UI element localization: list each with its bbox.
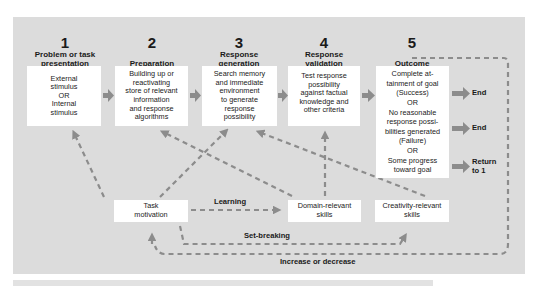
box-text: Some progress [388,156,437,166]
stage-number: 4 [280,35,368,50]
box-text: possibility [224,113,256,122]
task-motivation-box: Task motivation [114,200,188,222]
stage-number: 2 [108,35,196,50]
box-text: toward goal [394,165,432,175]
stage-5-heading: 5 Outcome [368,35,456,68]
box-text: No reasonable [389,108,436,118]
box-text: OR [407,146,418,156]
box-text: (Success) [396,88,428,98]
stage-3-box: Search memory and immediate environment … [202,66,277,126]
box-text: skills [317,211,333,220]
learning-label: Learning [214,198,246,207]
box-text: tainment of goal [387,79,439,89]
stage-number: 1 [20,35,110,50]
stage-title: Problem or task [20,50,110,59]
stage-5-box: Complete at- tainment of goal (Success) … [376,66,449,178]
domain-skills-box: Domain-relevant skills [288,200,361,222]
box-text: bilities generated [385,127,440,137]
stage-4-heading: 4 Response validation [280,35,368,68]
stage-title [368,50,456,59]
box-text: other criteria [304,106,345,115]
stage-number: 3 [195,35,283,50]
stage-1-box: External stimulus OR Internal stimulus [27,66,101,126]
stage-number: 5 [368,35,456,50]
stage-2-box: Building up or reactivating store of rel… [115,66,188,126]
outcome-failure-end: End [472,124,486,133]
stage-1-heading: 1 Problem or task presentation [20,35,110,68]
box-text: (Failure) [399,136,426,146]
box-text: motivation [134,211,167,220]
arrow-3-to-4 [278,89,288,102]
arrow-4-to-5 [362,89,375,102]
increase-decrease-label: Increase or decrease [280,258,356,267]
creativity-skills-box: Creativity-relevant skills [375,200,449,222]
stage-title: Response [280,50,368,59]
outcome-success-end: End [472,89,486,98]
outcome-return-to-1: Return to 1 [472,158,496,175]
box-text: Complete at- [392,69,434,79]
stage-title [108,50,196,59]
arrow-1-to-2 [103,89,114,102]
box-text: skills [404,211,420,220]
return-line2: to 1 [472,167,496,176]
stage-3-heading: 3 Response generation [195,35,283,68]
box-text: OR [407,98,418,108]
set-breaking-label: Set-breaking [244,232,290,241]
stage-2-heading: 2 Preparation [108,35,196,68]
box-text: algorithms [135,113,169,122]
box-text: stimulus [51,109,78,118]
figure-caption-cutoff [13,280,433,286]
stage-4-box: Test response possibility against factua… [288,66,360,126]
arrow-2-to-3 [190,89,201,102]
stage-title: Response [195,50,283,59]
box-text: response possi- [387,117,439,127]
